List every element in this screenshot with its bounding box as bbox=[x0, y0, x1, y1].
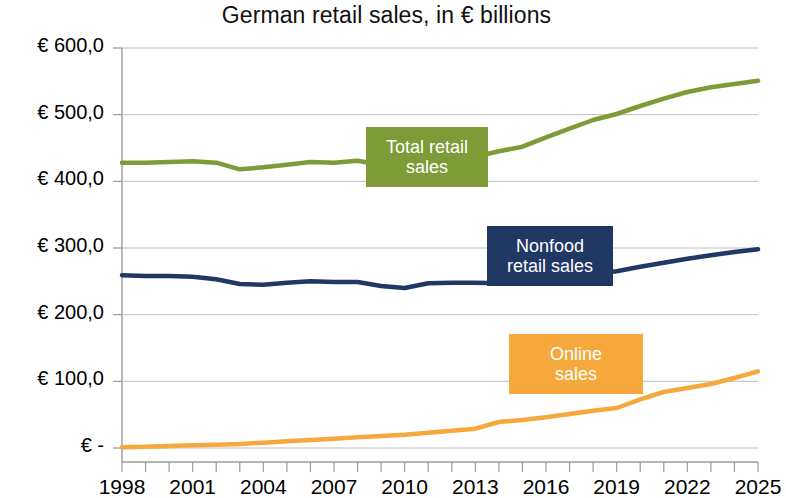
series-line bbox=[122, 371, 758, 447]
series-label-total-retail-sales: Total retail sales bbox=[366, 127, 488, 187]
gridlines bbox=[122, 48, 758, 448]
x-tick-label: 2022 bbox=[652, 475, 722, 498]
series-label-online-sales: Online sales bbox=[509, 334, 643, 394]
x-tick-marks bbox=[122, 462, 758, 472]
y-tick-label: € 300,0 bbox=[0, 234, 104, 257]
y-tick-marks bbox=[113, 48, 122, 448]
series-label-nonfood-retail-sales: Nonfood retail sales bbox=[487, 226, 613, 286]
x-tick-label: 2001 bbox=[158, 475, 228, 498]
x-tick-label: 2019 bbox=[582, 475, 652, 498]
y-tick-label: € 400,0 bbox=[0, 167, 104, 190]
x-tick-label: 2007 bbox=[299, 475, 369, 498]
x-tick-label: 1998 bbox=[87, 475, 157, 498]
y-tick-label: € - bbox=[0, 434, 104, 457]
y-tick-label: € 200,0 bbox=[0, 301, 104, 324]
axis-lines bbox=[122, 48, 758, 462]
y-tick-label: € 600,0 bbox=[0, 34, 104, 57]
y-tick-label: € 100,0 bbox=[0, 367, 104, 390]
x-tick-label: 2016 bbox=[511, 475, 581, 498]
x-tick-label: 2004 bbox=[228, 475, 298, 498]
y-tick-label: € 500,0 bbox=[0, 101, 104, 124]
series-line bbox=[122, 249, 758, 288]
x-tick-label: 2010 bbox=[370, 475, 440, 498]
x-tick-label: 2025 bbox=[723, 475, 786, 498]
x-tick-label: 2013 bbox=[440, 475, 510, 498]
